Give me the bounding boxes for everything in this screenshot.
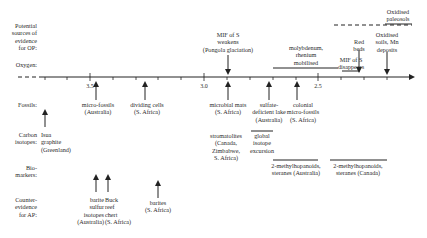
event-mif-weakens: MIF of S weakens (Pongola glaciation) bbox=[203, 31, 253, 53]
biomarker-australia: 2-methylhopanoids, steranes (Australia) bbox=[271, 162, 320, 177]
tick-label-3-0: 3.0 bbox=[200, 83, 208, 89]
carbon-isua: Isua graphite (Greenland) bbox=[41, 131, 71, 153]
biomarker-canada: 2-methylhopanoids, steranes (Canada) bbox=[333, 162, 382, 177]
tick-label-2-5: 2.5 bbox=[314, 83, 322, 89]
event-molybdenum: molybdenum, rhenium mobilised bbox=[289, 44, 323, 66]
row-label-counter: Counter- evidence for AP: bbox=[3, 196, 37, 218]
fossil-dividing-cells: dividing cells (S. Africa) bbox=[130, 101, 164, 116]
event-mif-disappears: MIF of S disappears bbox=[338, 56, 364, 71]
carbon-global-excursion: global isotope excursion bbox=[250, 132, 274, 154]
fossil-stromatolites: stromatolites (Canada, Zimbabwe, S. Afri… bbox=[210, 132, 242, 162]
tick-label-3-5: 3.5 bbox=[86, 83, 94, 89]
event-oxidised-soils: Oxidised soils, Mn deposits bbox=[375, 31, 398, 53]
event-red-beds: Red beds bbox=[353, 38, 364, 53]
counter-barite-sulfur: barite sulfur isotopes (Australia) bbox=[70, 196, 104, 226]
row-label-biomarkers: Bio- markers: bbox=[3, 164, 37, 179]
fossil-microbial-mats: microbial mats (S. Africa) bbox=[210, 101, 247, 116]
counter-buck-reef: Buck reef chert (S. Africa) bbox=[105, 196, 131, 226]
row-label-fossils: Fossils: bbox=[3, 101, 37, 108]
event-oxidised-paleosols: Oxidised paleosols bbox=[386, 8, 409, 23]
fossil-microfossils: micro-fossils (Australia) bbox=[82, 101, 114, 116]
row-label-carbon: Carbon isotopes: bbox=[3, 131, 37, 146]
row-label-op-sources: Potential sources of evidence for OP: bbox=[3, 22, 37, 52]
counter-barites: barites (S. Africa) bbox=[145, 199, 171, 214]
fossil-colonial: colonial micro-fossils (S. Africa) bbox=[287, 101, 319, 123]
row-label-oxygen: Oxygen: bbox=[3, 61, 37, 68]
fossil-sulfate-lake: sulfate- deficient lake (Australia) bbox=[252, 101, 286, 123]
